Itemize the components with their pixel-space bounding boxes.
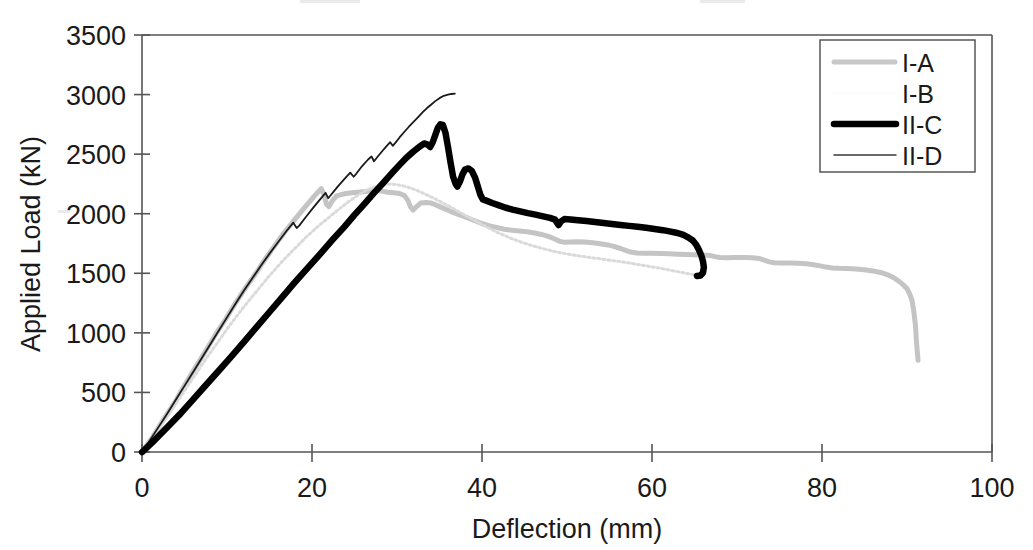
x-tick-label: 60 xyxy=(637,473,667,503)
y-tick-label: 2500 xyxy=(66,140,126,170)
chart-figure: 0500100015002000250030003500 02040608010… xyxy=(0,0,1033,550)
series-line-ii-d xyxy=(142,94,455,452)
y-tick-label: 1500 xyxy=(66,259,126,289)
x-axis-tick-labels: 020406080100 xyxy=(134,473,1014,503)
legend-label-i-a: I-A xyxy=(902,49,934,77)
y-tick-label: 500 xyxy=(81,378,126,408)
x-tick-label: 20 xyxy=(297,473,327,503)
load-deflection-chart: 0500100015002000250030003500 02040608010… xyxy=(0,0,1033,550)
y-tick-label: 3000 xyxy=(66,81,126,111)
series-line-ii-c xyxy=(142,124,704,452)
chart-legend: I-AI-BII-CII-D xyxy=(820,40,975,172)
legend-label-ii-c: II-C xyxy=(902,111,942,139)
y-tick-label: 1000 xyxy=(66,319,126,349)
x-axis-title: Deflection (mm) xyxy=(472,514,663,544)
x-tick-label: 100 xyxy=(969,473,1014,503)
x-tick-label: 40 xyxy=(467,473,497,503)
x-tick-label: 80 xyxy=(807,473,837,503)
legend-label-i-b: I-B xyxy=(902,80,934,108)
data-series-group xyxy=(142,94,918,452)
y-tick-label: 3500 xyxy=(66,21,126,51)
y-axis-tick-labels: 0500100015002000250030003500 xyxy=(66,21,126,468)
legend-label-ii-d: II-D xyxy=(902,142,942,170)
scan-artifacts xyxy=(58,0,745,213)
y-tick-label: 0 xyxy=(111,438,126,468)
x-tick-label: 0 xyxy=(134,473,149,503)
y-axis-title: Applied Load (kN) xyxy=(16,136,46,352)
y-tick-label: 2000 xyxy=(66,200,126,230)
